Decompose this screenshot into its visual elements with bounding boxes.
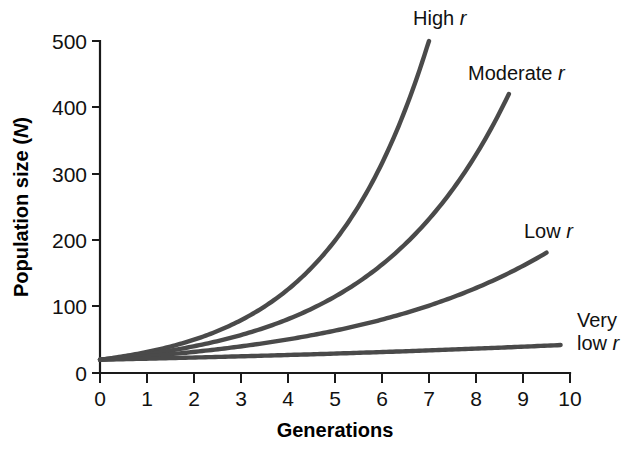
y-axis-title-paren-open: ( xyxy=(10,138,32,151)
exponential-growth-chart: 500 400 300 200 100 0 0 1 2 3 4 xyxy=(0,0,636,455)
x-tick-label-1: 1 xyxy=(141,387,153,410)
label-high-r-symbol: r xyxy=(460,7,468,29)
x-tick-label-10: 10 xyxy=(558,387,581,410)
x-tick-label-8: 8 xyxy=(470,387,482,410)
x-tick-label-7: 7 xyxy=(423,387,435,410)
label-high-r: High r xyxy=(413,7,468,29)
x-tick-label-2: 2 xyxy=(188,387,200,410)
curve-low-r xyxy=(100,253,547,360)
svg-text:Population size (N): Population size (N) xyxy=(10,117,32,297)
x-tick-label-4: 4 xyxy=(282,387,294,410)
label-moderate-r-text: Moderate xyxy=(468,62,553,84)
x-tick-label-3: 3 xyxy=(235,387,247,410)
x-tick-label-9: 9 xyxy=(517,387,529,410)
label-low-r-symbol: r xyxy=(566,220,574,242)
y-tick-label-100: 100 xyxy=(52,295,87,318)
series-curves xyxy=(100,41,561,360)
label-low-r-text: Low xyxy=(524,220,561,242)
x-axis-ticks xyxy=(100,373,570,383)
y-axis-tick-labels: 500 400 300 200 100 0 xyxy=(52,30,87,385)
y-axis-ticks xyxy=(92,41,100,373)
label-high-r-text: High xyxy=(413,7,454,29)
y-tick-label-300: 300 xyxy=(52,163,87,186)
x-tick-label-0: 0 xyxy=(94,387,106,410)
y-tick-label-500: 500 xyxy=(52,30,87,53)
x-axis-tick-labels: 0 1 2 3 4 5 6 7 8 9 10 xyxy=(94,387,582,410)
y-axis-title-text: Population size xyxy=(10,150,32,297)
curve-moderate-r xyxy=(100,94,509,360)
y-axis-title: Population size (N) xyxy=(10,117,32,297)
label-moderate-r-symbol: r xyxy=(558,62,566,84)
label-very-low-r-line2: low xyxy=(577,332,608,354)
x-tick-label-6: 6 xyxy=(376,387,388,410)
y-tick-label-400: 400 xyxy=(52,96,87,119)
label-very-low-r: Very low r xyxy=(577,309,623,354)
curve-high-r xyxy=(100,41,429,360)
label-moderate-r: Moderate r xyxy=(468,62,566,84)
label-low-r: Low r xyxy=(524,220,574,242)
y-axis-title-symbol: N xyxy=(10,123,32,138)
x-axis-title: Generations xyxy=(277,419,394,441)
x-tick-label-5: 5 xyxy=(329,387,341,410)
y-tick-label-0: 0 xyxy=(75,362,87,385)
y-axis-title-paren-close: ) xyxy=(10,117,32,124)
label-very-low-r-symbol: r xyxy=(613,332,621,354)
chart-figure: 500 400 300 200 100 0 0 1 2 3 4 xyxy=(0,0,636,455)
y-tick-label-200: 200 xyxy=(52,229,87,252)
label-very-low-r-line1: Very xyxy=(577,309,617,331)
